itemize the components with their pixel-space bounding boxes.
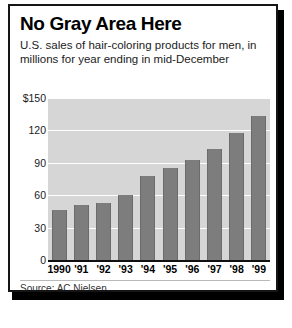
y-axis-tick-label: 120 bbox=[12, 124, 46, 136]
y-axis-tick-label: $150 bbox=[12, 92, 46, 104]
bar bbox=[74, 205, 89, 260]
x-axis-labels: 1990'91'92'93'94'95'96'97'98'99 bbox=[48, 263, 270, 279]
bar bbox=[251, 116, 266, 260]
bar bbox=[52, 210, 67, 260]
chart-panel: No Gray Area Here U.S. sales of hair-col… bbox=[8, 4, 278, 292]
bar bbox=[229, 133, 244, 260]
x-axis-tick-label: '99 bbox=[243, 263, 275, 275]
source-divider bbox=[20, 280, 270, 281]
bar bbox=[163, 168, 178, 260]
y-axis-tick-label: 90 bbox=[12, 157, 46, 169]
bar bbox=[140, 176, 155, 260]
bar bbox=[185, 160, 200, 260]
bar bbox=[96, 203, 111, 260]
bar-series bbox=[48, 98, 270, 260]
bar bbox=[207, 149, 222, 260]
x-axis-line bbox=[48, 260, 270, 262]
chart-figure: No Gray Area Here U.S. sales of hair-col… bbox=[0, 0, 292, 328]
y-axis-tick-label: 30 bbox=[12, 222, 46, 234]
y-axis-tick-label: 60 bbox=[12, 189, 46, 201]
source-note: Source: AC Nielsen bbox=[20, 283, 107, 292]
y-axis-labels: 0306090120$150 bbox=[10, 6, 46, 290]
y-axis-tick-label: 0 bbox=[12, 254, 46, 266]
bar bbox=[118, 195, 133, 260]
chart-plot-region: 0306090120$150 1990'91'92'93'94'95'96'97… bbox=[10, 6, 276, 290]
